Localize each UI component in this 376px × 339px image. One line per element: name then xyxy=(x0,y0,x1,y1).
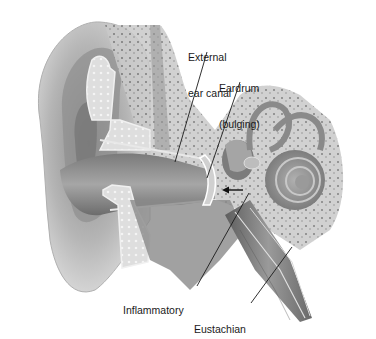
label-inflammatory-exudate-line1: Inflammatory xyxy=(123,304,184,316)
label-eardrum: Eardrum (bulging) xyxy=(219,58,260,142)
cochlea xyxy=(265,150,325,210)
label-eustachian-tube-line1: Eustachian xyxy=(194,323,246,335)
label-eardrum-line1: Eardrum xyxy=(219,82,260,94)
label-eustachian-tube: Eustachian tube (inflamed) xyxy=(194,299,246,339)
label-eardrum-line2: (bulging) xyxy=(219,118,260,130)
label-inflammatory-exudate: Inflammatory exudate xyxy=(123,280,184,339)
